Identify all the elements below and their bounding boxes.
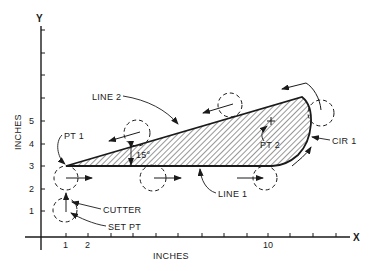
x-axis [25,233,350,237]
line1-leader [200,169,216,193]
pt2-label: PT 2 [260,140,280,150]
setpt-label: SET PT [108,222,141,232]
x-axis-letter: X [353,232,360,243]
cir1-leader [312,137,330,140]
y-axis-units: INCHES [13,114,23,150]
x-tick-1: 1 [63,240,68,250]
cir1-label: CIR 1 [332,136,357,146]
setpt-leader [71,213,106,226]
line2-leader [123,96,178,124]
cutter-path-diagram: Y 5 4 3 2 1 INCHES X 1 2 10 INCHES PT 2 … [0,0,370,271]
y-tick-3: 3 [29,161,34,171]
y-axis [41,26,45,250]
arrow-left-icon [109,132,140,141]
y-tick-5: 5 [29,116,34,126]
angle-label: 15° [136,150,151,160]
x-axis-units: INCHES [153,251,189,261]
y-axis-letter: Y [36,13,43,24]
x-tick-10: 10 [263,240,273,250]
line2-label: LINE 2 [92,92,121,102]
pt1-label: PT 1 [64,131,84,141]
y-tick-2: 2 [29,184,34,194]
y-tick-4: 4 [29,139,34,149]
cutter-label: CUTTER [103,205,141,215]
line1-label: LINE 1 [218,189,247,199]
x-tick-2: 2 [85,240,90,250]
cutter-circle-setpt [53,198,77,222]
part-profile [66,97,311,166]
y-tick-1: 1 [29,206,34,216]
cutter-circle-cir1 [308,100,334,126]
